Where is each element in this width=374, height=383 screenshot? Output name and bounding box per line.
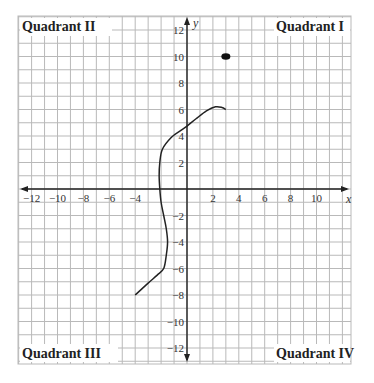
y-axis-label: y <box>192 16 199 30</box>
x-tick-label: −4 <box>129 192 141 204</box>
x-tick-label: −8 <box>78 192 90 204</box>
grid <box>18 16 351 364</box>
quadrant-iv-label: Quadrant IV <box>276 346 354 361</box>
x-tick-label: 4 <box>236 192 242 204</box>
coordinate-plane: −12−10−8−6−4246810 12108642−2−4−6−8−10−1… <box>0 0 374 383</box>
grid-frame <box>18 16 351 364</box>
y-tick-label: 6 <box>179 104 185 116</box>
axes <box>20 17 349 362</box>
y-tick-label: 8 <box>179 77 185 89</box>
plotted-points <box>221 53 230 60</box>
y-tick-label: −6 <box>172 263 184 275</box>
x-tick-label: −10 <box>49 192 67 204</box>
data-point <box>221 53 230 60</box>
y-tick-label: −10 <box>167 316 185 328</box>
y-tick-label: −2 <box>172 210 184 222</box>
x-tick-label: 2 <box>210 192 216 204</box>
x-tick-label: −6 <box>103 192 115 204</box>
y-axis-arrow-up-icon <box>184 17 190 25</box>
x-axis-label: x <box>345 192 352 206</box>
quadrant-ii-label: Quadrant II <box>22 19 96 34</box>
y-tick-label: −12 <box>167 342 184 354</box>
x-tick-label: 8 <box>288 192 294 204</box>
y-tick-label: −4 <box>172 236 184 248</box>
y-tick-label: 10 <box>173 51 185 63</box>
quadrant-i-label: Quadrant I <box>276 19 344 34</box>
x-tick-label: 10 <box>311 192 323 204</box>
y-tick-label: 12 <box>173 24 184 36</box>
x-tick-label: 6 <box>262 192 268 204</box>
y-tick-label: 2 <box>179 157 185 169</box>
y-tick-label: −8 <box>172 289 184 301</box>
x-tick-label: −12 <box>23 192 40 204</box>
quadrant-iii-label: Quadrant III <box>22 346 101 361</box>
